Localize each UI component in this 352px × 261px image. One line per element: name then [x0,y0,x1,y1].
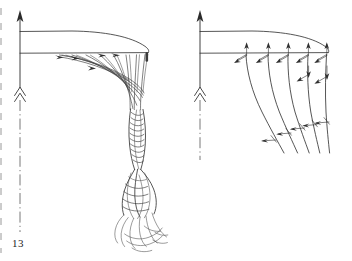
panel-left [15,10,168,252]
figure-plate: 13 [0,0,352,261]
right-axis-double-chevron-icon [195,87,206,101]
left-symmetry-axis [15,10,26,232]
left-shed-vortex-fan [55,53,148,110]
left-vortex-rope [122,109,156,219]
velocity-marker [261,136,276,143]
page-folio: 13 [12,237,24,249]
velocity-vector-pair-secondary [297,66,311,81]
right-trailing-vortex-filaments [246,55,330,153]
velocity-vector-pair-secondary [314,66,329,84]
right-symmetry-axis [195,10,206,160]
left-rope-frayed-end [115,213,168,252]
figure-svg [0,0,352,261]
left-axis-double-chevron-icon [15,87,26,101]
velocity-marker [302,120,317,127]
panel-right [195,10,330,160]
right-wing-planform [200,31,329,53]
left-wing-planform [20,31,149,53]
right-upper-velocity-vectors [234,42,329,84]
velocity-marker [290,124,305,131]
